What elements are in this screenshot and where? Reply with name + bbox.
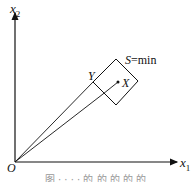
diagram-graphics xyxy=(0,0,191,182)
vector-to-x-lower xyxy=(15,94,103,162)
segment-to-x xyxy=(103,82,118,94)
y-axis-label: x2 xyxy=(10,2,20,19)
figure-caption: 图 · · · · 的 的 的 的 的 xyxy=(0,171,191,182)
point-x-label: X xyxy=(122,77,129,89)
point-x-dot xyxy=(117,81,120,84)
vector-to-y xyxy=(15,82,93,162)
point-y-label: Y xyxy=(88,70,95,82)
diagram-canvas: x2 x1 O Y X S=min 图 · · · · 的 的 的 的 的 xyxy=(0,0,191,182)
square-label: S=min xyxy=(125,54,156,66)
